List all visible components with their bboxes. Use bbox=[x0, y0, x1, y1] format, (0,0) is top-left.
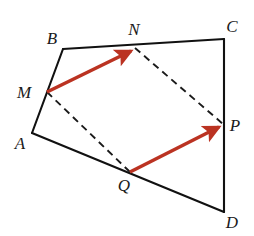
label-D: D bbox=[225, 213, 239, 232]
label-M: M bbox=[16, 83, 32, 102]
label-P: P bbox=[229, 116, 240, 135]
geometry-canvas: A B C D M N P Q bbox=[0, 0, 254, 236]
geometry-diagram: A B C D M N P Q bbox=[0, 0, 254, 236]
label-N: N bbox=[127, 20, 141, 39]
dashed-segments bbox=[47, 48, 223, 172]
label-Q: Q bbox=[118, 176, 130, 195]
edge-B-C bbox=[63, 39, 224, 49]
vector-arrows bbox=[47, 51, 219, 172]
label-C: C bbox=[226, 17, 238, 36]
point-labels: A B C D M N P Q bbox=[14, 17, 240, 232]
dashed-M-Q bbox=[47, 92, 130, 172]
dashed-N-P bbox=[135, 48, 223, 124]
vector-Q-P bbox=[130, 127, 219, 172]
label-A: A bbox=[14, 134, 26, 153]
label-B: B bbox=[47, 29, 58, 48]
edge-D-A bbox=[32, 133, 224, 212]
